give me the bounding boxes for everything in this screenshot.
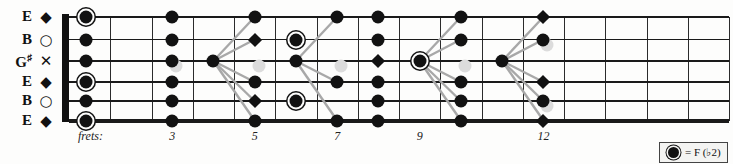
circle-marker-2: ○ — [38, 32, 54, 48]
fret-line-4 — [234, 17, 235, 121]
note-diamond — [536, 10, 550, 24]
note-dot — [454, 11, 467, 24]
note-root-ringed — [80, 114, 93, 127]
note-dot — [454, 95, 467, 108]
ghost-note — [252, 60, 265, 73]
fret-number-12: 12 — [537, 129, 549, 144]
string-label-4: E — [2, 74, 32, 89]
note-dot — [537, 33, 550, 46]
nut — [62, 14, 69, 122]
legend-root-note-icon — [668, 147, 679, 158]
note-diamond — [248, 32, 262, 46]
fret-line-11 — [523, 17, 524, 121]
string-label-3: G♯ — [2, 53, 32, 70]
fret-line-3 — [193, 17, 194, 121]
circle-marker-5: ○ — [38, 93, 54, 109]
note-dot — [248, 114, 261, 127]
string-label-6: E — [2, 113, 32, 128]
fret-line-15 — [688, 17, 689, 121]
note-dot — [248, 11, 261, 24]
note-dot — [289, 55, 302, 68]
string-label-2: B — [2, 32, 32, 47]
fret-line-14 — [647, 17, 648, 121]
note-dot — [454, 114, 467, 127]
note-dot — [80, 55, 93, 68]
note-dot — [80, 33, 93, 46]
note-dot — [454, 33, 467, 46]
note-dot — [331, 11, 344, 24]
note-dot — [372, 33, 385, 46]
legend-text: = F (♭2) — [685, 146, 721, 159]
note-dot — [372, 114, 385, 127]
note-dot — [207, 55, 220, 68]
fret-line-12 — [564, 17, 565, 121]
note-root-ringed — [289, 95, 302, 108]
note-root-ringed — [413, 55, 426, 68]
fret-line-6 — [317, 17, 318, 121]
note-dot — [166, 114, 179, 127]
note-dot — [372, 11, 385, 24]
note-dot — [331, 114, 344, 127]
note-diamond — [371, 54, 385, 68]
ghost-note — [335, 60, 348, 73]
string-label-5: B — [2, 93, 32, 108]
note-diamond — [248, 94, 262, 108]
fret-number-3: 3 — [169, 129, 175, 144]
note-dot — [166, 76, 179, 89]
fret-line-7 — [358, 17, 359, 121]
fret-line-5 — [275, 17, 276, 121]
note-dot — [537, 95, 550, 108]
fret-number-7: 7 — [334, 129, 340, 144]
fret-line-16 — [729, 17, 730, 121]
frets-label: frets: — [78, 129, 103, 144]
legend-box: = F (♭2) — [659, 142, 728, 163]
note-dot — [372, 95, 385, 108]
fret-line-9 — [440, 17, 441, 121]
fret-line-2 — [152, 17, 153, 121]
diamond-marker-4: ◆ — [38, 74, 54, 90]
note-root-ringed — [80, 11, 93, 24]
note-dot — [496, 55, 509, 68]
diamond-marker-1: ◆ — [38, 9, 54, 25]
note-root-ringed — [289, 33, 302, 46]
x-marker-3: ✕ — [38, 53, 54, 69]
note-dot — [80, 95, 93, 108]
fret-line-10 — [482, 17, 483, 121]
note-diamond — [536, 75, 550, 89]
fret-line-1 — [110, 17, 111, 121]
diamond-marker-6: ◆ — [38, 113, 54, 129]
fret-line-13 — [605, 17, 606, 121]
note-dot — [454, 76, 467, 89]
note-root-ringed — [80, 76, 93, 89]
fretboard-diagram: EBG♯EBE ◆○✕◆○◆ frets: 357912 = F (♭2) — [0, 0, 733, 164]
note-dot — [248, 76, 261, 89]
fret-number-5: 5 — [252, 129, 258, 144]
note-diamond — [536, 113, 550, 127]
note-dot — [166, 55, 179, 68]
fret-number-9: 9 — [417, 129, 423, 144]
note-dot — [166, 95, 179, 108]
ghost-note — [458, 60, 471, 73]
note-dot — [331, 76, 344, 89]
note-dot — [372, 76, 385, 89]
note-dot — [166, 33, 179, 46]
string-label-1: E — [2, 9, 32, 24]
note-dot — [166, 11, 179, 24]
fret-line-8 — [399, 17, 400, 121]
